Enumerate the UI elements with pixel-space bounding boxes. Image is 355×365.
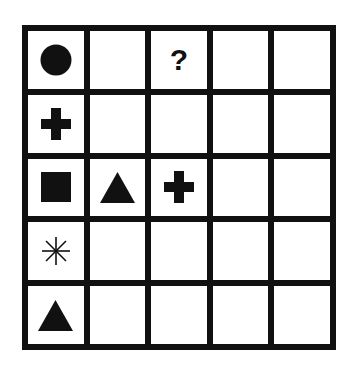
square-icon	[41, 172, 71, 202]
grid-cell-r3-c2	[90, 159, 146, 217]
grid-cell-r1-c4	[213, 31, 269, 89]
plus-icon	[41, 108, 71, 140]
grid-cell-r2-c3	[151, 95, 207, 153]
grid-cell-r2-c5	[274, 95, 330, 153]
grid-cell-r5-c3	[151, 286, 207, 344]
grid-cell-r3-c5	[274, 159, 330, 217]
grid-cell-r5-c5	[274, 286, 330, 344]
question-mark-icon: ?	[170, 45, 188, 75]
grid-cell-r1-c1	[28, 31, 84, 89]
grid-cell-r5-c1	[28, 286, 84, 344]
grid-cell-r1-c3: ?	[151, 31, 207, 89]
grid-cell-r4-c1	[28, 222, 84, 280]
triangle-icon	[38, 300, 73, 331]
grid-cell-r4-c2	[90, 222, 146, 280]
grid-cell-r2-c1	[28, 95, 84, 153]
plus-icon	[164, 171, 194, 203]
grid-cell-r1-c5	[274, 31, 330, 89]
grid-cell-r4-c4	[213, 222, 269, 280]
grid-cell-r4-c3	[151, 222, 207, 280]
grid-cell-r5-c2	[90, 286, 146, 344]
puzzle-grid: ?	[22, 25, 336, 350]
grid-cell-r4-c5	[274, 222, 330, 280]
grid-cell-r2-c4	[213, 95, 269, 153]
grid-cell-r1-c2	[90, 31, 146, 89]
grid-cell-r5-c4	[213, 286, 269, 344]
asterisk-icon	[41, 236, 71, 266]
grid-cell-r2-c2	[90, 95, 146, 153]
circle-icon	[40, 44, 72, 76]
triangle-icon	[100, 172, 135, 203]
grid-cell-r3-c3	[151, 159, 207, 217]
grid-cell-r3-c4	[213, 159, 269, 217]
grid-cell-r3-c1	[28, 159, 84, 217]
